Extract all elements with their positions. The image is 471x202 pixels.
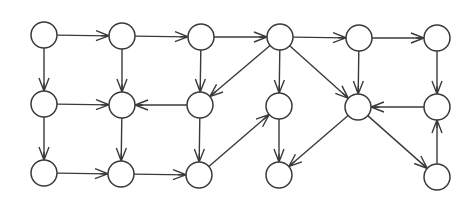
node-F xyxy=(424,25,450,51)
graph-canvas xyxy=(0,0,471,202)
edge-I-O xyxy=(194,118,204,162)
edge-C-D xyxy=(214,32,267,42)
node-I xyxy=(187,92,213,118)
edge-C-I xyxy=(195,50,205,92)
node-B xyxy=(109,23,135,49)
edge-G-H xyxy=(57,100,109,110)
node-E xyxy=(346,25,372,51)
edge-line xyxy=(209,114,269,166)
node-G xyxy=(31,91,57,117)
node-K xyxy=(345,94,371,120)
edge-E-K xyxy=(353,51,363,94)
edge-Q-L xyxy=(432,120,442,164)
node-Q xyxy=(424,164,450,190)
edge-line xyxy=(210,45,270,96)
edge-I-H xyxy=(135,100,187,110)
edge-M-N xyxy=(57,169,108,179)
edge-line xyxy=(290,46,349,99)
edges-layer xyxy=(39,31,442,180)
edge-D-I xyxy=(210,45,270,96)
edge-E-F xyxy=(372,33,424,43)
edge-B-H xyxy=(117,49,127,92)
edge-H-N xyxy=(116,118,126,161)
edge-D-E xyxy=(293,33,346,43)
edge-A-G xyxy=(39,48,49,91)
edge-N-O xyxy=(134,170,186,180)
node-P xyxy=(266,162,292,188)
node-H xyxy=(109,92,135,118)
edge-G-M xyxy=(39,117,49,160)
node-D xyxy=(267,24,293,50)
node-L xyxy=(424,94,450,120)
edge-O-J xyxy=(209,114,269,166)
edge-D-K xyxy=(290,46,349,99)
node-O xyxy=(186,162,212,188)
edge-line xyxy=(289,115,348,166)
node-M xyxy=(31,160,57,186)
edge-L-K xyxy=(371,102,424,112)
node-N xyxy=(108,161,134,187)
node-C xyxy=(188,24,214,50)
edge-line xyxy=(368,116,428,169)
directed-graph xyxy=(0,0,471,202)
node-A xyxy=(31,22,57,48)
edge-B-C xyxy=(135,32,188,42)
nodes-layer xyxy=(31,22,450,190)
edge-K-Q xyxy=(368,116,428,169)
edge-K-P xyxy=(289,115,348,166)
edge-D-J xyxy=(274,50,284,93)
node-J xyxy=(266,93,292,119)
edge-F-L xyxy=(432,51,442,94)
edge-A-B xyxy=(57,31,109,41)
edge-J-P xyxy=(274,119,284,162)
